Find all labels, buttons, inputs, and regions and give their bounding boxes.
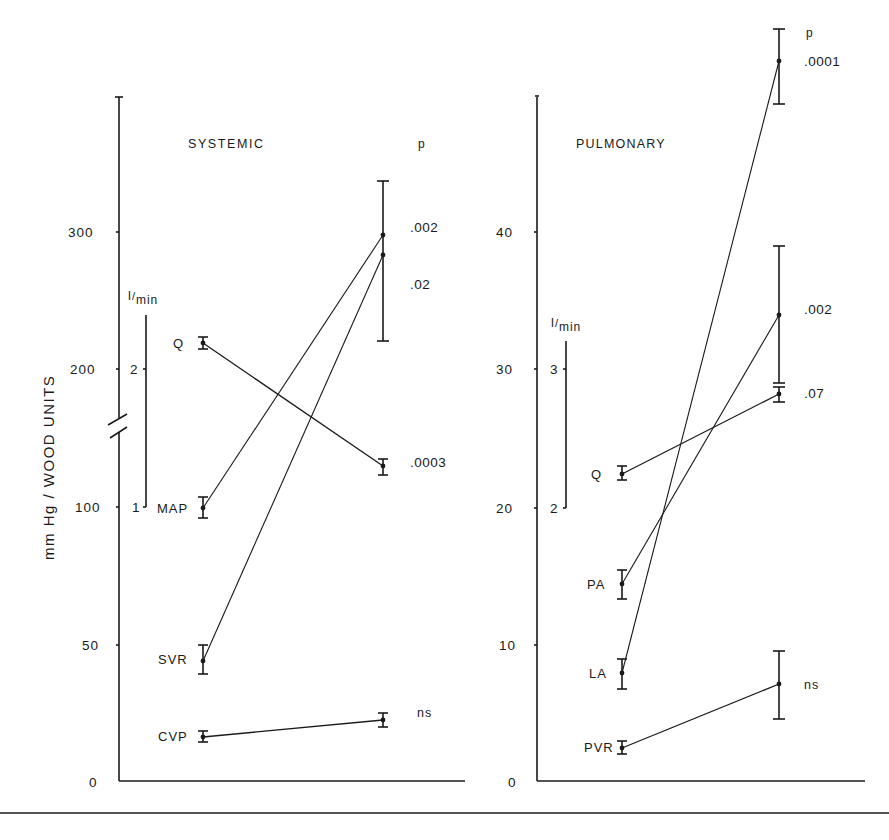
pvalue-q: .07 [804,386,824,401]
pulmonary-flow-unit: l/min [551,315,581,334]
series-label-q: Q [173,336,184,351]
y-axis-title: mm Hg / WOOD UNITS [40,375,57,560]
pvalue-map: .002 [410,220,438,235]
pulmonary-flow-tick-2: 2 [550,501,559,516]
series-label-cvp: CVP [158,729,188,744]
error-bar [617,466,627,754]
error-bar [198,337,208,742]
figure-canvas: mm Hg / WOOD UNITS SYSTEMIC p 300 200 10… [0,0,889,840]
pvalue-cvp: ns [417,706,432,720]
systemic-flow-unit: l/min [128,288,158,307]
pulmonary-tick-0: 0 [508,775,517,790]
systemic-title: SYSTEMIC [188,137,265,151]
systemic-flow-tick-1: 1 [132,500,141,515]
axis-break-icon [108,414,127,425]
series-label-la: LA [589,666,607,681]
series-label-svr: SVR [158,652,188,667]
pvalue-svr: .02 [410,277,430,292]
pulmonary-la-line [622,61,779,673]
pulmonary-tick-40: 40 [496,225,513,240]
systemic-tick-100: 100 [75,500,101,515]
series-label-map: MAP [157,501,188,516]
systemic-cvp-line [203,720,383,737]
systemic-panel [108,97,465,781]
pvalue-q: .0003 [410,455,446,470]
pvalue-pa: .002 [804,302,832,317]
systemic-svr-line [203,255,383,661]
data-points [201,233,386,740]
pulmonary-pvr-line [622,684,779,748]
pulmonary-title: PULMONARY [576,137,666,151]
error-bar [377,181,389,727]
pulmonary-tick-20: 20 [496,501,513,516]
systemic-flow-tick-2: 2 [130,362,139,377]
series-label-pvr: PVR [584,740,614,755]
systemic-tick-0: 0 [89,775,98,790]
systemic-tick-50: 50 [82,638,99,653]
pvalue-la: .0001 [804,54,840,69]
pulmonary-pa-line [622,315,779,584]
pulmonary-p-header: p [806,26,814,40]
error-bar [773,29,785,719]
pulmonary-flow-tick-3: 3 [550,362,559,377]
systemic-q-line [203,343,383,466]
pvalue-pvr: ns [804,678,819,692]
series-label-pa: PA [587,577,605,592]
systemic-tick-300: 300 [68,225,94,240]
pulmonary-tick-10: 10 [499,638,516,653]
pulmonary-tick-30: 30 [496,362,513,377]
series-label-q: Q [591,467,602,482]
pulmonary-q-line [622,394,779,474]
systemic-map-line [203,235,383,508]
systemic-tick-200: 200 [70,362,96,377]
systemic-p-header: p [418,137,426,151]
